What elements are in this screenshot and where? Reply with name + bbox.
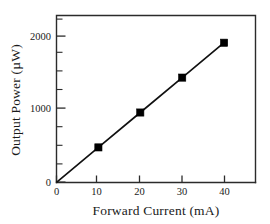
- y-axis-minor-ticks: [57, 19, 63, 164]
- data-point-marker: [137, 109, 144, 116]
- x-tick-label-10: 10: [91, 186, 102, 197]
- x-axis-tick-labels: 0 10 20 30 40: [54, 186, 230, 197]
- data-point-marker: [220, 39, 227, 46]
- y-tick-label-2000: 2000: [30, 31, 51, 42]
- y-axis-tick-labels: 0 1000 2000: [30, 31, 51, 188]
- y-tick-label-1000: 1000: [30, 103, 51, 114]
- y-axis-title: Output Power (µW): [8, 44, 23, 156]
- x-axis-title: Forward Current (mA): [93, 203, 220, 218]
- x-tick-label-40: 40: [219, 186, 230, 197]
- y-axis-major-ticks: [57, 36, 66, 182]
- data-series-group: [57, 39, 228, 182]
- x-axis-major-ticks: [57, 176, 225, 183]
- line-chart: 0 1000 2000 0 10 20 30 40 Forward Curren…: [0, 0, 270, 224]
- y-tick-label-0: 0: [46, 177, 51, 188]
- data-point-marker: [179, 74, 186, 81]
- x-tick-label-0: 0: [54, 186, 59, 197]
- data-point-marker: [95, 144, 102, 151]
- x-tick-label-30: 30: [177, 186, 188, 197]
- x-tick-label-20: 20: [134, 186, 145, 197]
- chart-figure: 0 1000 2000 0 10 20 30 40 Forward Curren…: [0, 0, 270, 224]
